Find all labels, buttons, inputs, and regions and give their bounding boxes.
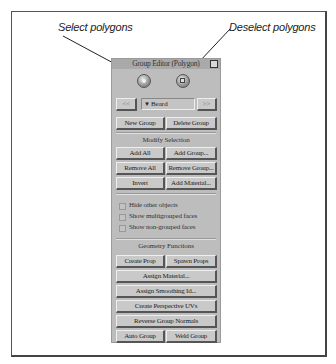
close-icon[interactable] (210, 60, 218, 68)
select-polygons-button[interactable] (137, 74, 151, 88)
next-group-button[interactable]: >> (197, 98, 217, 111)
square-deselect-icon (180, 78, 185, 83)
geometry-functions-heading: Geometry Functions (112, 242, 220, 250)
callout-select-polygons: Select polygons (58, 21, 133, 33)
dropdown-triangle-icon: ▼ (144, 101, 150, 107)
current-group-value: Beard (151, 100, 168, 108)
add-group-button[interactable]: Add Group... (166, 147, 217, 160)
spawn-props-button[interactable]: Spawn Props (166, 255, 217, 268)
divider (116, 132, 216, 134)
new-group-button[interactable]: New Group (116, 117, 165, 130)
hide-other-objects-label: Hide other objects (129, 201, 178, 209)
group-selector-dropdown[interactable]: ▼Beard (141, 98, 195, 110)
remove-all-button[interactable]: Remove All (116, 162, 165, 175)
deselect-polygons-button[interactable] (176, 74, 190, 88)
callout-deselect-polygons: Deselect polygons (229, 21, 316, 33)
auto-group-button[interactable]: Auto Group (116, 330, 165, 343)
hide-other-objects-checkbox[interactable] (119, 203, 126, 210)
show-non-grouped-faces-label: Show non-grouped faces (129, 223, 195, 231)
remove-group-button[interactable]: Remove Group... (166, 162, 217, 175)
reverse-group-normals-button[interactable]: Reverse Group Normals (116, 315, 217, 328)
modify-selection-heading: Modify Selection (112, 136, 220, 144)
show-multigrouped-faces-checkbox[interactable] (119, 214, 126, 221)
delete-group-button[interactable]: Delete Group (166, 117, 217, 130)
show-multigrouped-faces-label: Show multigrouped faces (129, 212, 197, 220)
panel-titlebar[interactable]: Group Editor (Polygon) (112, 59, 220, 69)
assign-material-button[interactable]: Assign Material... (116, 270, 217, 283)
add-material-button[interactable]: Add Material... (166, 177, 217, 190)
panel-title: Group Editor (Polygon) (132, 59, 199, 68)
show-non-grouped-faces-checkbox[interactable] (119, 225, 126, 232)
assign-smoothing-id-button[interactable]: Assign Smoothing Id... (116, 285, 217, 298)
previous-group-button[interactable]: << (116, 98, 137, 111)
add-all-button[interactable]: Add All (116, 147, 165, 160)
invert-button[interactable]: Invert (116, 177, 165, 190)
divider (116, 238, 216, 240)
divider (116, 193, 216, 195)
weld-group-button[interactable]: Weld Group (166, 330, 217, 343)
circle-select-icon (142, 79, 146, 83)
create-perspective-uvs-button[interactable]: Create Perspective UVs (116, 300, 217, 313)
create-prop-button[interactable]: Create Prop (116, 255, 165, 268)
group-editor-panel: Group Editor (Polygon) << ▼Beard >> New … (111, 58, 221, 343)
